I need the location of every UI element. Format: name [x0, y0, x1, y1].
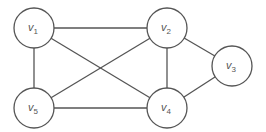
node-v5: v5 [14, 88, 54, 128]
graph-diagram: v1v2v3v4v5 [0, 0, 266, 132]
node-v4: v4 [147, 88, 187, 128]
nodes: v1v2v3v4v5 [14, 8, 252, 128]
node-v3: v3 [212, 46, 252, 86]
edges [34, 28, 232, 108]
node-v1: v1 [14, 8, 54, 48]
node-v2: v2 [147, 8, 187, 48]
